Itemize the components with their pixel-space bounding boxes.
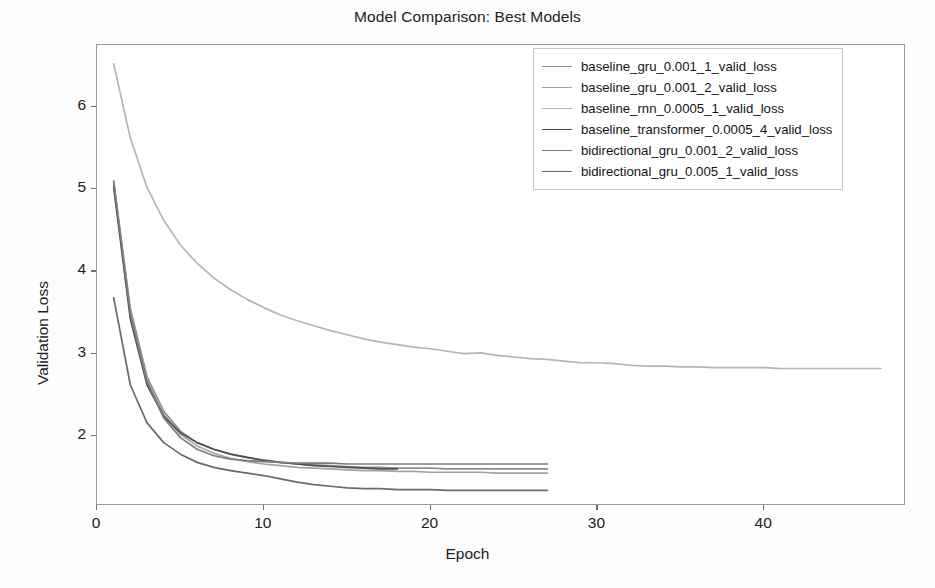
x-axis-label: Epoch: [0, 545, 935, 563]
legend-line-swatch: [542, 171, 572, 172]
series-line: [114, 182, 548, 468]
legend-item[interactable]: bidirectional_gru_0.005_1_valid_loss: [542, 161, 832, 182]
legend-item[interactable]: baseline_rnn_0.0005_1_valid_loss: [542, 98, 832, 119]
legend-label: baseline_gru_0.001_1_valid_loss: [581, 59, 777, 74]
series-line: [114, 298, 548, 491]
legend-label: baseline_gru_0.001_2_valid_loss: [581, 80, 777, 95]
y-tick-label: 5: [52, 178, 86, 196]
x-tick-label: 0: [73, 514, 119, 532]
legend-line-swatch: [542, 87, 572, 88]
y-tick-label: 2: [52, 425, 86, 443]
legend-item[interactable]: baseline_transformer_0.0005_4_valid_loss: [542, 119, 832, 140]
x-tick-label: 40: [740, 514, 786, 532]
y-tick-label: 3: [52, 343, 86, 361]
legend-line-swatch: [542, 66, 572, 67]
legend-line-swatch: [542, 108, 572, 109]
legend-label: baseline_rnn_0.0005_1_valid_loss: [581, 101, 784, 116]
legend-line-swatch: [542, 129, 572, 130]
series-line: [114, 181, 548, 464]
x-tick-label: 30: [573, 514, 619, 532]
chart-title: Model Comparison: Best Models: [0, 8, 935, 26]
y-axis-label: Validation Loss: [34, 281, 52, 385]
x-tick-label: 10: [240, 514, 286, 532]
legend-label: bidirectional_gru_0.001_2_valid_loss: [581, 143, 798, 158]
legend-label: baseline_transformer_0.0005_4_valid_loss: [581, 122, 832, 137]
legend-label: bidirectional_gru_0.005_1_valid_loss: [581, 164, 798, 179]
legend-item[interactable]: baseline_gru_0.001_1_valid_loss: [542, 56, 832, 77]
y-tick-label: 4: [52, 260, 86, 278]
y-tick-label: 6: [52, 96, 86, 114]
legend: baseline_gru_0.001_1_valid_lossbaseline_…: [533, 48, 843, 190]
x-tick-label: 20: [407, 514, 453, 532]
legend-item[interactable]: bidirectional_gru_0.001_2_valid_loss: [542, 140, 832, 161]
legend-item[interactable]: baseline_gru_0.001_2_valid_loss: [542, 77, 832, 98]
series-line: [114, 187, 398, 469]
legend-line-swatch: [542, 150, 572, 151]
chart-figure: Model Comparison: Best Models Validation…: [0, 0, 935, 588]
